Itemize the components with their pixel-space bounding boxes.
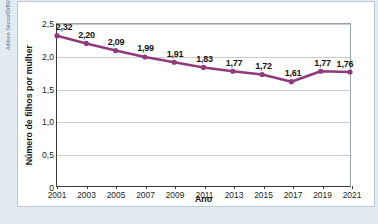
x-axis-tick bbox=[234, 186, 235, 189]
x-axis-tick bbox=[264, 186, 265, 189]
data-point-marker bbox=[289, 79, 294, 84]
data-point-marker bbox=[318, 69, 323, 74]
data-point-label: 1,83 bbox=[196, 54, 213, 64]
data-point-label: 2,20 bbox=[78, 30, 95, 40]
data-point-label: 1,72 bbox=[255, 61, 272, 71]
y-axis-tick-label: 1,5 bbox=[42, 85, 54, 95]
y-axis-tick-label: 2,5 bbox=[42, 19, 54, 29]
data-point-marker bbox=[142, 54, 147, 59]
data-point-label: 1,77 bbox=[314, 58, 331, 68]
x-axis-tick bbox=[352, 186, 353, 189]
image-credit-text: Adilson Secco/ID/BR bbox=[0, 0, 16, 52]
data-point-marker bbox=[172, 60, 177, 65]
data-point-label: 2,32 bbox=[56, 22, 73, 32]
data-point-label: 1,77 bbox=[226, 58, 243, 68]
y-axis-tick-label: 0,5 bbox=[42, 150, 54, 160]
data-point-marker bbox=[230, 69, 235, 74]
x-axis-tick bbox=[87, 186, 88, 189]
image-credit: Adilson Secco/ID/BR bbox=[0, 0, 16, 170]
x-axis-tick bbox=[205, 186, 206, 189]
data-point-label: 1,99 bbox=[137, 43, 154, 53]
data-point-label: 1,76 bbox=[337, 59, 354, 69]
data-point-label: 1,91 bbox=[167, 49, 184, 59]
data-point-marker bbox=[113, 48, 118, 53]
y-axis-title: Número de filhos por mulher bbox=[22, 23, 36, 187]
data-point-label: 2,09 bbox=[108, 37, 125, 47]
data-point-marker bbox=[260, 72, 265, 77]
y-axis-tick-label: 2,0 bbox=[42, 52, 54, 62]
line-series bbox=[57, 24, 350, 186]
x-axis-tick bbox=[293, 186, 294, 189]
x-axis-tick bbox=[116, 186, 117, 189]
x-axis-tick bbox=[57, 186, 58, 189]
x-axis-title: Ano bbox=[56, 194, 351, 204]
data-point-marker bbox=[201, 65, 206, 70]
data-point-marker bbox=[84, 41, 89, 46]
x-axis-tick bbox=[323, 186, 324, 189]
plot-area: 00,51,01,52,02,5 20012003200520072009201… bbox=[56, 23, 351, 187]
chart-card: Número de filhos por mulher 00,51,01,52,… bbox=[17, 1, 375, 207]
y-axis-title-text: Número de filhos por mulher bbox=[24, 45, 34, 165]
data-point-label: 1,61 bbox=[285, 68, 302, 78]
x-axis-tick bbox=[175, 186, 176, 189]
y-axis-tick-label: 1,0 bbox=[42, 117, 54, 127]
data-point-marker bbox=[54, 33, 59, 38]
chart-figure: Adilson Secco/ID/BR Número de filhos por… bbox=[0, 0, 378, 224]
data-point-marker bbox=[347, 69, 352, 74]
x-axis-tick bbox=[146, 186, 147, 189]
